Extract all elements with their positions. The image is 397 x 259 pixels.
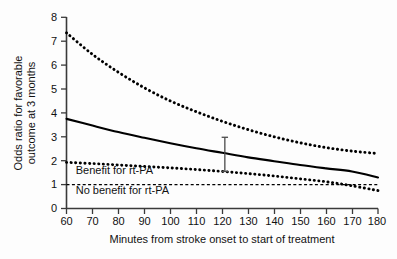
x-tick-label-160: 160 xyxy=(317,215,335,227)
odds-ratio-chart-figure: 0 1 2 3 4 5 6 7 8 60 7 xyxy=(0,0,397,259)
x-tick-label-180: 180 xyxy=(368,215,386,227)
x-tick-label-110: 110 xyxy=(188,215,206,227)
no-benefit-annotation-label: No benefit for rt-PA xyxy=(76,184,170,196)
x-axis-title: Minutes from stroke onset to start of tr… xyxy=(110,233,335,245)
x-tick-label-80: 80 xyxy=(112,215,124,227)
x-tick-label-100: 100 xyxy=(161,215,179,227)
y-tick-label-4: 4 xyxy=(51,107,57,119)
y-tick-label-6: 6 xyxy=(51,59,57,71)
y-tick-labels: 0 1 2 3 4 5 6 7 8 xyxy=(51,11,57,214)
x-tick-label-120: 120 xyxy=(213,215,231,227)
y-tick-label-8: 8 xyxy=(51,11,57,23)
chart-canvas: 0 1 2 3 4 5 6 7 8 60 7 xyxy=(0,0,397,259)
x-tick-label-90: 90 xyxy=(138,215,150,227)
benefit-annotation-label: Benefit for rt-PA xyxy=(76,164,154,176)
y-axis-title-line1: Odds ratio for favorable xyxy=(12,56,24,171)
x-tick-labels: 60 70 80 90 100 110 120 130 140 150 160 … xyxy=(60,215,386,227)
x-tick-label-130: 130 xyxy=(239,215,257,227)
y-axis-title-line2: outcome at 3 months xyxy=(25,61,37,164)
x-tick-label-60: 60 xyxy=(60,215,72,227)
y-tick-label-2: 2 xyxy=(51,155,57,167)
y-tick-label-5: 5 xyxy=(51,83,57,95)
x-tick-marks xyxy=(67,209,379,215)
x-tick-label-150: 150 xyxy=(291,215,309,227)
y-tick-label-0: 0 xyxy=(51,202,57,214)
y-tick-label-7: 7 xyxy=(51,35,57,47)
upper-confidence-curve xyxy=(67,33,379,154)
x-tick-label-170: 170 xyxy=(343,215,361,227)
x-tick-label-70: 70 xyxy=(86,215,98,227)
y-tick-label-1: 1 xyxy=(51,178,57,190)
y-tick-label-3: 3 xyxy=(51,131,57,143)
x-tick-label-140: 140 xyxy=(265,215,283,227)
axis-group xyxy=(66,17,378,209)
y-tick-marks xyxy=(61,17,67,208)
